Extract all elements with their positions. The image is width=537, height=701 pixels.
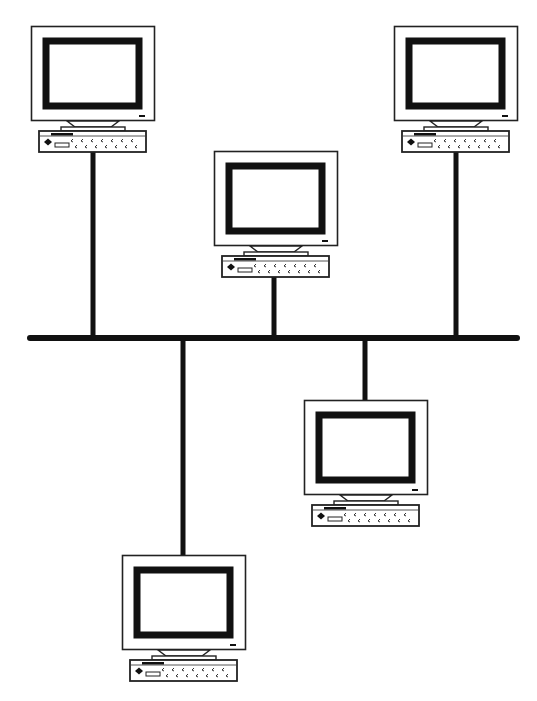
bus-network-diagram: Workstation 1 Workstation 2 Workstation … (0, 0, 537, 701)
computer-icon: Workstation 3 (395, 27, 518, 153)
computer-icon: Workstation 4 (305, 401, 428, 527)
computer-icon: Workstation 1 (32, 27, 155, 153)
computer-icon: Workstation 2 (215, 152, 338, 278)
computer-icon: Workstation 5 (123, 556, 246, 682)
